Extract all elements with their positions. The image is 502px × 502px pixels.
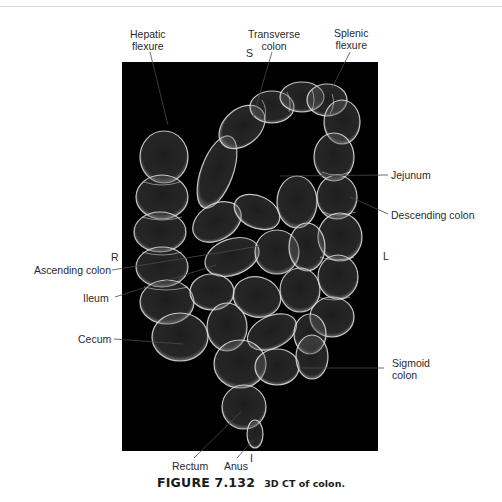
label-splenic-flexure: Splenic flexure <box>334 27 368 51</box>
label-jejunum: Jejunum <box>391 169 431 181</box>
figure-number: FIGURE 7.132 <box>157 475 255 490</box>
label-transverse-colon: Transverse colon <box>248 28 300 52</box>
orientation-inferior: I <box>250 452 253 464</box>
label-ileum: Ileum <box>83 292 109 304</box>
figure-caption: FIGURE 7.132 3D CT of colon. <box>0 472 502 491</box>
rectum-shape <box>222 385 266 448</box>
label-anus: Anus <box>224 460 248 472</box>
label-sigmoid-colon: Sigmoid colon <box>392 357 430 381</box>
figure-description: 3D CT of colon. <box>264 478 345 489</box>
label-cecum: Cecum <box>78 333 111 345</box>
label-hepatic-flexure: Hepatic flexure <box>130 28 166 52</box>
ascending-colon-shape <box>134 131 208 361</box>
orientation-left: L <box>383 250 389 262</box>
label-descending-colon: Descending colon <box>391 209 474 221</box>
orientation-superior: S <box>246 47 253 59</box>
top-rule <box>0 6 502 7</box>
ct-image-panel <box>122 62 378 451</box>
label-rectum: Rectum <box>172 460 208 472</box>
colon-3d-render <box>122 62 378 451</box>
orientation-right: R <box>111 251 119 263</box>
label-ascending-colon: Ascending colon <box>34 264 111 276</box>
